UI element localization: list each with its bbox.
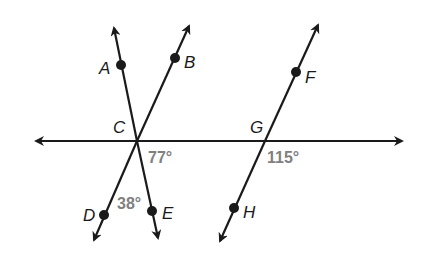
angle-115-label: 115° [267,149,299,166]
angle-77-label: 77° [148,149,172,166]
point-a-dot [116,60,126,70]
point-e-dot [147,206,157,216]
point-h-dot [229,203,239,213]
point-h-label: H [243,203,256,222]
point-d-label: D [83,206,95,225]
geometry-diagram: A B C D E F G H 77° 38° 115° [0,0,425,265]
point-a-label: A [98,59,110,78]
point-b-dot [170,53,180,63]
point-g-label: G [250,118,263,137]
point-f-label: F [305,68,317,87]
point-c-label: C [113,118,126,137]
point-b-label: B [184,53,195,72]
point-d-dot [99,210,109,220]
point-f-dot [291,67,301,77]
point-e-label: E [162,204,174,223]
angle-38-label: 38° [117,195,141,212]
